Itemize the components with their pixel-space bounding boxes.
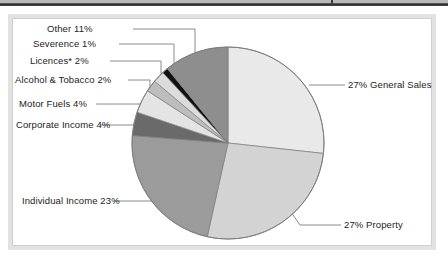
pie-slice-general-sales	[228, 47, 324, 153]
slice-label-alcohol-tobacco: Alcohol & Tobacco 2%	[15, 75, 111, 85]
pie-slices	[132, 47, 324, 239]
slice-label-general-sales: 27% General Sales	[348, 80, 432, 90]
slice-label-property: 27% Property	[344, 220, 403, 230]
leader-line-property	[291, 212, 341, 225]
slice-label-individual-income: Individual Income 23%	[22, 196, 120, 206]
slice-label-other: Other 11%	[47, 24, 93, 34]
slice-label-severence: Severence 1%	[33, 39, 96, 49]
slice-label-motor-fuels: Motor Fuels 4%	[19, 99, 87, 109]
slice-label-licences: Licences* 2%	[30, 56, 89, 66]
pie-chart: Other 11% Severence 1% Licences* 2% Alco…	[0, 0, 448, 260]
slice-label-corporate-income: Corporate Income 4%	[16, 120, 110, 130]
